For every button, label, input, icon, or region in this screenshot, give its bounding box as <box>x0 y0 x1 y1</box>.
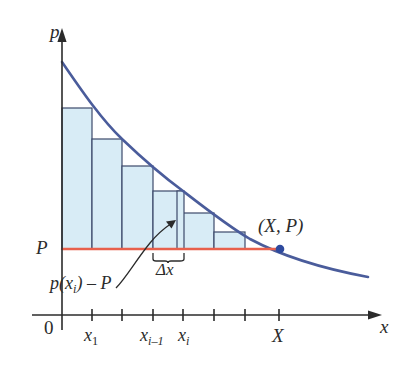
surplus-strip-highlight <box>177 191 184 249</box>
rectangle-3 <box>122 166 153 249</box>
rectangle-1 <box>62 108 92 249</box>
rectangle-2 <box>92 139 122 249</box>
tick-label-x1-base: x <box>84 325 92 345</box>
surplus-expression-tail: ) – P <box>76 273 111 293</box>
delta-x-label: Δx <box>156 261 174 278</box>
rectangle-5 <box>183 213 214 249</box>
tick-label-xi-base: x <box>178 325 186 345</box>
origin-label: 0 <box>44 318 54 337</box>
x-axis-label: x <box>380 317 388 336</box>
tick-label-x1: x1 <box>84 326 98 347</box>
surplus-expression-lead: p(x <box>50 273 73 293</box>
price-label: P <box>36 238 48 257</box>
equilibrium-point-label: (X, P) <box>258 216 303 235</box>
tick-label-xi: xi <box>178 326 189 347</box>
rectangle-6 <box>214 232 245 249</box>
riemann-rectangles <box>62 108 245 249</box>
tick-label-x1-sub: 1 <box>92 334 98 348</box>
figure-canvas <box>0 0 402 371</box>
tick-label-xi-minus-1-base: x <box>140 325 148 345</box>
tick-label-X: X <box>272 326 284 345</box>
tick-label-xi-sub: i <box>186 334 189 348</box>
p-axis-label: p <box>50 22 60 41</box>
equilibrium-point-dot <box>276 245 285 254</box>
tick-label-xi-minus-1: xi–1 <box>140 326 164 347</box>
tick-label-xi-minus-1-sub: i–1 <box>148 334 164 348</box>
surplus-expression-label: p(xi) – P <box>50 274 111 295</box>
consumer-surplus-figure: p x 0 P x1 xi–1 xi X (X, P) Δx p(xi) – P <box>0 0 402 371</box>
